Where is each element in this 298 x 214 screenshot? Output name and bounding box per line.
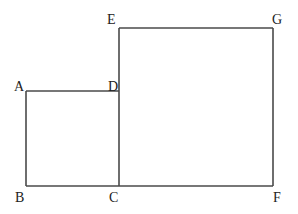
label-f: F [273, 190, 281, 205]
label-e: E [107, 12, 116, 27]
label-b: B [15, 190, 24, 205]
small-square-abcd [26, 91, 119, 186]
label-a: A [14, 79, 25, 94]
label-c: C [109, 190, 118, 205]
vertex-labels: A B C D E G F [14, 12, 282, 205]
label-d: D [108, 79, 118, 94]
label-g: G [272, 12, 282, 27]
geometry-diagram: A B C D E G F [0, 0, 298, 214]
large-square-cegf [119, 28, 273, 186]
